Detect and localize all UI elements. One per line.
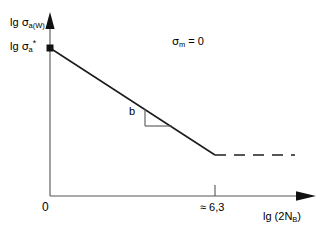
series-line-sloped [50, 48, 215, 155]
slope-label: b [129, 106, 135, 117]
y-axis-value-prefix: lg [10, 40, 19, 52]
x-axis-tick-label: ≈ 6,3 [200, 202, 224, 213]
y-axis-value-symbol: σ [22, 40, 29, 53]
y-axis-title-prefix: lg [10, 16, 19, 28]
y-axis-value-superscript: * [33, 38, 36, 48]
fatigue-curve-figure: lg σa(W) lg σa* σm = 0 b 0 ≈ 6,3 lg (2NB… [0, 0, 332, 236]
y-axis-title-symbol: σ [22, 16, 29, 29]
mean-stress-symbol: σ [172, 35, 179, 48]
y-axis-value-label: lg σa* [10, 41, 36, 52]
x-axis-title: lg (2NB) [263, 211, 301, 222]
y-axis-title: lg σa(W) [10, 17, 45, 28]
x-axis-title-suffix: ) [297, 210, 301, 222]
y-axis-title-subscript: a(W) [29, 21, 45, 30]
y-axis-arrowhead [45, 12, 54, 29]
annotation-mean-stress: σm = 0 [172, 36, 204, 47]
chart-plot-area [0, 0, 332, 236]
origin-label: 0 [42, 201, 49, 213]
mean-stress-equals: = 0 [185, 35, 204, 47]
x-axis-title-prefix: lg (2N [263, 210, 292, 222]
mean-stress-subscript: m [179, 40, 185, 49]
x-axis-arrowhead [296, 191, 316, 201]
x-axis-title-subscript: B [292, 215, 297, 224]
